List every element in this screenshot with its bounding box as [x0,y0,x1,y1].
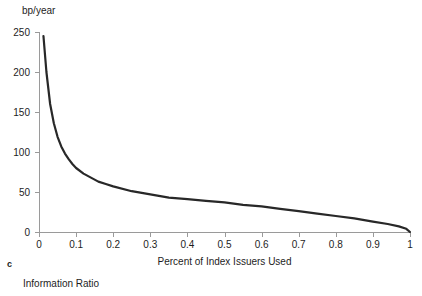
x-axis-tick [113,233,114,237]
y-axis-tick [35,152,39,153]
data-curve [39,32,410,232]
x-axis-tick-label: 0.8 [329,239,343,250]
y-axis-title: bp/year [22,5,55,16]
y-axis-tick-label: 0 [24,227,30,238]
y-axis-tick [35,192,39,193]
x-axis-tick-label: 0.9 [366,239,380,250]
x-axis-tick [262,233,263,237]
y-axis-tick [35,32,39,33]
x-axis-tick [373,233,374,237]
x-axis-tick-label: 0 [36,239,42,250]
x-axis-tick [336,233,337,237]
x-axis-tick-label: 0.4 [180,239,194,250]
panel-label: c [7,259,12,269]
x-axis-tick-label: 0.3 [143,239,157,250]
x-axis-tick-label: 0.5 [218,239,232,250]
x-axis-tick [299,233,300,237]
x-axis-tick-label: 0.7 [292,239,306,250]
x-axis-tick [39,233,40,237]
x-axis-title: Percent of Index Issuers Used [39,256,410,267]
x-axis-tick [187,233,188,237]
x-axis-tick [76,233,77,237]
x-axis-tick-label: 0.2 [106,239,120,250]
x-axis-tick [225,233,226,237]
y-axis-tick-label: 200 [13,67,30,78]
y-axis-tick-label: 50 [19,187,30,198]
figure-caption: Information Ratio [23,278,99,289]
y-axis-tick-label: 150 [13,107,30,118]
x-axis-tick-label: 0.6 [255,239,269,250]
x-axis-tick-label: 0.1 [69,239,83,250]
chart-figure: bp/year 05010015020025000.10.20.30.40.50… [0,0,422,296]
y-axis-tick [35,112,39,113]
y-axis-tick [35,72,39,73]
x-axis-tick-label: 1 [407,239,413,250]
y-axis-tick-label: 250 [13,27,30,38]
plot-area: 05010015020025000.10.20.30.40.50.60.70.8… [39,32,410,232]
x-axis-tick [150,233,151,237]
x-axis-tick [410,233,411,237]
y-axis-tick-label: 100 [13,147,30,158]
